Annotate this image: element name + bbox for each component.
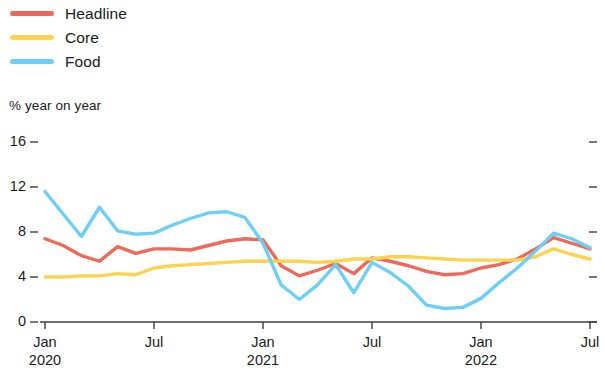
chart-container: Headline Core Food % year on year 048121… [0, 0, 605, 374]
y-axis-ticks-right [589, 142, 597, 322]
chart-svg [0, 0, 605, 374]
x-tick-label: Jan2021 [247, 333, 279, 369]
x-tick-label: Jul [145, 333, 164, 351]
x-axis-ticks [45, 322, 590, 329]
y-tick-label: 0 [0, 313, 26, 329]
x-tick-label: Jan2020 [29, 333, 61, 369]
y-tick-label: 8 [0, 223, 26, 239]
y-tick-label: 16 [0, 133, 26, 149]
plot-area: 0481216 Jan2020JulJan2021JulJan2022Jul [0, 0, 605, 374]
x-tick-label: Jan2022 [465, 333, 497, 369]
data-lines [45, 192, 590, 309]
y-tick-label: 4 [0, 268, 26, 284]
x-tick-label: Jul [581, 333, 600, 351]
y-tick-label: 12 [0, 178, 26, 194]
x-tick-label: Jul [363, 333, 382, 351]
data-line-headline [45, 238, 590, 276]
y-axis-ticks-left [30, 142, 38, 322]
